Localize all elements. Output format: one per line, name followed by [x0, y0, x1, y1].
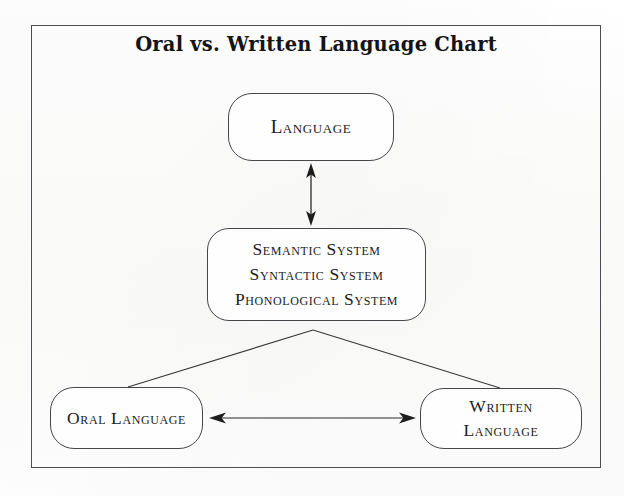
systems-node-label-semantic: Semantic System	[252, 237, 380, 262]
oral-language-node[interactable]: Oral Language	[50, 387, 203, 449]
diagram-canvas: Oral vs. Written Language Chart Language…	[0, 0, 624, 496]
language-node[interactable]: Language	[228, 93, 394, 161]
written-language-node[interactable]: Written Language	[420, 388, 582, 449]
written-language-node-label-2: Language	[464, 419, 539, 443]
oral-language-node-label: Oral Language	[67, 408, 186, 429]
systems-node-label-syntactic: Syntactic System	[250, 262, 384, 287]
systems-node[interactable]: Semantic System Syntactic System Phonolo…	[207, 228, 426, 321]
page-title: Oral vs. Written Language Chart	[31, 33, 601, 56]
language-node-label: Language	[271, 116, 352, 138]
written-language-node-label-1: Written	[469, 395, 532, 419]
systems-node-label-phonological: Phonological System	[235, 287, 398, 312]
